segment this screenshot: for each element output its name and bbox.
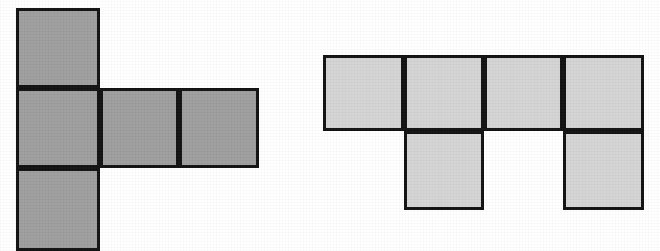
cell-row1-col3 [484,55,563,131]
cell-row2-col2 [404,131,484,210]
figure-canvas: Two square nets (unfolded cube patterns)… [0,0,660,251]
cell-row1-col2 [404,55,484,131]
right-net [0,0,660,251]
cell-row2-col4 [563,131,644,210]
cell-row1-col1 [323,55,404,131]
cell-row1-col4 [563,55,644,131]
